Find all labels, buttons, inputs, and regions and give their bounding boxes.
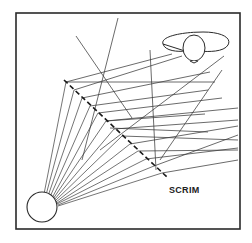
source-rays <box>44 82 162 206</box>
eye-icon <box>163 32 229 63</box>
light-source-icon <box>27 192 57 222</box>
scrim-label: SCRIM <box>169 185 200 195</box>
scrim-diffusion-diagram: SCRIM <box>0 0 252 243</box>
